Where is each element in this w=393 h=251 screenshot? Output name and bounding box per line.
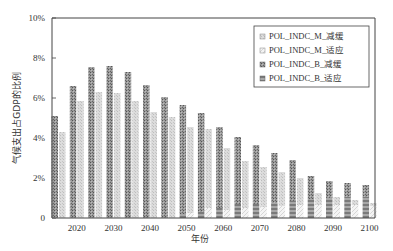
bar-m-mitigation bbox=[77, 101, 84, 218]
x-tick-label: 2020 bbox=[68, 223, 87, 233]
bar-m-adaptation bbox=[260, 207, 267, 218]
bar-b-adaptation bbox=[253, 204, 259, 218]
bar-m-mitigation bbox=[59, 132, 66, 218]
climate-expenditure-chart: 02%4%6%8%10% 202020302040205020602070208… bbox=[0, 0, 393, 251]
x-tick-label: 2070 bbox=[251, 223, 270, 233]
bar-m-adaptation bbox=[352, 205, 359, 218]
x-axis-title: 年份 bbox=[191, 233, 209, 244]
bar-b-mitigation bbox=[308, 176, 315, 199]
bar-b-adaptation bbox=[235, 204, 242, 218]
bar-m-mitigation bbox=[260, 167, 267, 207]
bar-m-mitigation bbox=[205, 129, 212, 208]
bar-m-adaptation bbox=[297, 205, 304, 218]
x-tick-label: 2080 bbox=[287, 223, 306, 233]
bar-m-mitigation bbox=[187, 127, 194, 213]
bar-b-mitigation bbox=[161, 97, 168, 218]
y-tick-label: 10% bbox=[29, 13, 46, 23]
legend-label-b-mitigation: POL_INDC_B_减缓 bbox=[269, 59, 342, 69]
x-tick-label: 2100 bbox=[361, 223, 380, 233]
bar-b-mitigation bbox=[125, 72, 132, 218]
y-axis-title: 气候支出占GDP的比例 bbox=[11, 72, 22, 163]
bar-m-mitigation bbox=[279, 172, 286, 206]
bar-b-mitigation bbox=[198, 113, 205, 212]
bar-b-adaptation bbox=[289, 201, 296, 218]
legend-swatch-m-adaptation bbox=[260, 48, 265, 53]
bar-b-adaptation bbox=[198, 212, 205, 218]
bar-m-mitigation bbox=[334, 197, 341, 205]
y-tick-label: 4% bbox=[33, 133, 46, 143]
x-tick-label: 2040 bbox=[141, 223, 160, 233]
y-tick-label: 8% bbox=[33, 53, 46, 63]
bar-b-mitigation bbox=[143, 85, 150, 218]
bar-m-adaptation bbox=[334, 205, 341, 218]
bar-b-mitigation bbox=[88, 67, 95, 218]
bar-b-mitigation bbox=[180, 105, 187, 214]
legend: POL_INDC_M_减缓 POL_INDC_M_适应 POL_INDC_B_减… bbox=[254, 26, 369, 87]
bar-m-mitigation bbox=[169, 117, 176, 218]
y-tick-label: 6% bbox=[33, 93, 46, 103]
x-axis-ticks: 202020302040205020602070208020902100 bbox=[68, 223, 379, 233]
legend-label-m-mitigation: POL_INDC_M_减缓 bbox=[269, 31, 344, 41]
bar-b-adaptation bbox=[308, 199, 315, 218]
y-tick-label: 2% bbox=[33, 173, 46, 183]
bar-b-adaptation bbox=[271, 203, 278, 218]
bar-m-adaptation bbox=[315, 205, 322, 218]
legend-label-m-adaptation: POL_INDC_M_适应 bbox=[269, 45, 344, 55]
bar-b-mitigation bbox=[253, 145, 259, 204]
bar-b-mitigation bbox=[106, 66, 113, 218]
bar-m-mitigation bbox=[242, 161, 249, 208]
bar-m-mitigation bbox=[370, 203, 377, 206]
bar-m-mitigation bbox=[151, 112, 158, 218]
bar-m-adaptation bbox=[224, 210, 231, 218]
bar-m-mitigation bbox=[96, 92, 103, 218]
bar-m-adaptation bbox=[242, 208, 249, 218]
bar-m-mitigation bbox=[114, 93, 121, 218]
bar-b-adaptation bbox=[344, 197, 351, 218]
x-tick-label: 2090 bbox=[324, 223, 343, 233]
bar-b-mitigation bbox=[216, 127, 223, 208]
x-tick-label: 2060 bbox=[214, 223, 233, 233]
x-tick-label: 2030 bbox=[104, 223, 123, 233]
bar-b-mitigation bbox=[326, 181, 333, 198]
bar-m-mitigation bbox=[352, 200, 359, 205]
bar-b-adaptation bbox=[363, 197, 370, 218]
bar-m-adaptation bbox=[370, 206, 377, 218]
y-tick-label: 0 bbox=[41, 213, 46, 223]
bar-m-adaptation bbox=[205, 208, 212, 218]
legend-swatch-b-mitigation bbox=[260, 62, 265, 67]
bar-m-mitigation bbox=[297, 178, 304, 205]
bar-m-adaptation bbox=[279, 206, 286, 218]
bar-m-mitigation bbox=[132, 101, 139, 218]
bar-m-mitigation bbox=[315, 193, 322, 205]
bar-b-mitigation bbox=[289, 160, 296, 201]
legend-label-b-adaptation: POL_INDC_B_适应 bbox=[269, 73, 342, 83]
bars bbox=[52, 66, 377, 218]
bar-b-adaptation bbox=[216, 208, 223, 218]
bar-b-adaptation bbox=[326, 198, 333, 218]
bar-b-mitigation bbox=[271, 153, 278, 203]
bar-b-mitigation bbox=[235, 137, 242, 204]
bar-b-adaptation bbox=[180, 214, 187, 218]
bar-b-mitigation bbox=[344, 183, 351, 197]
x-tick-label: 2050 bbox=[178, 223, 197, 233]
bar-b-mitigation bbox=[70, 86, 77, 218]
bar-m-adaptation bbox=[187, 213, 194, 218]
bar-m-mitigation bbox=[224, 148, 231, 210]
legend-swatch-b-adaptation bbox=[260, 76, 265, 81]
bar-b-mitigation bbox=[363, 185, 370, 197]
legend-swatch-m-mitigation bbox=[260, 34, 265, 39]
